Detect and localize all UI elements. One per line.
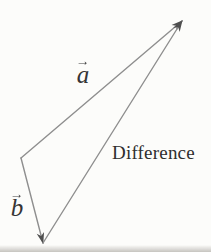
vector-a-line: [21, 21, 182, 158]
vector-b-label: → b: [4, 191, 30, 218]
vector-difference-diagram: → a → b Difference: [0, 0, 211, 252]
difference-vector-line: [43, 21, 182, 243]
vector-b-letter: b: [4, 198, 30, 218]
vector-b-overhead-arrow-icon: →: [4, 192, 30, 198]
vector-a-letter: a: [70, 65, 96, 85]
vector-a-overhead-arrow-icon: →: [70, 59, 96, 65]
vector-a-label: → a: [70, 58, 96, 85]
diagram-svg: [0, 0, 211, 252]
difference-label: Difference: [112, 141, 195, 165]
